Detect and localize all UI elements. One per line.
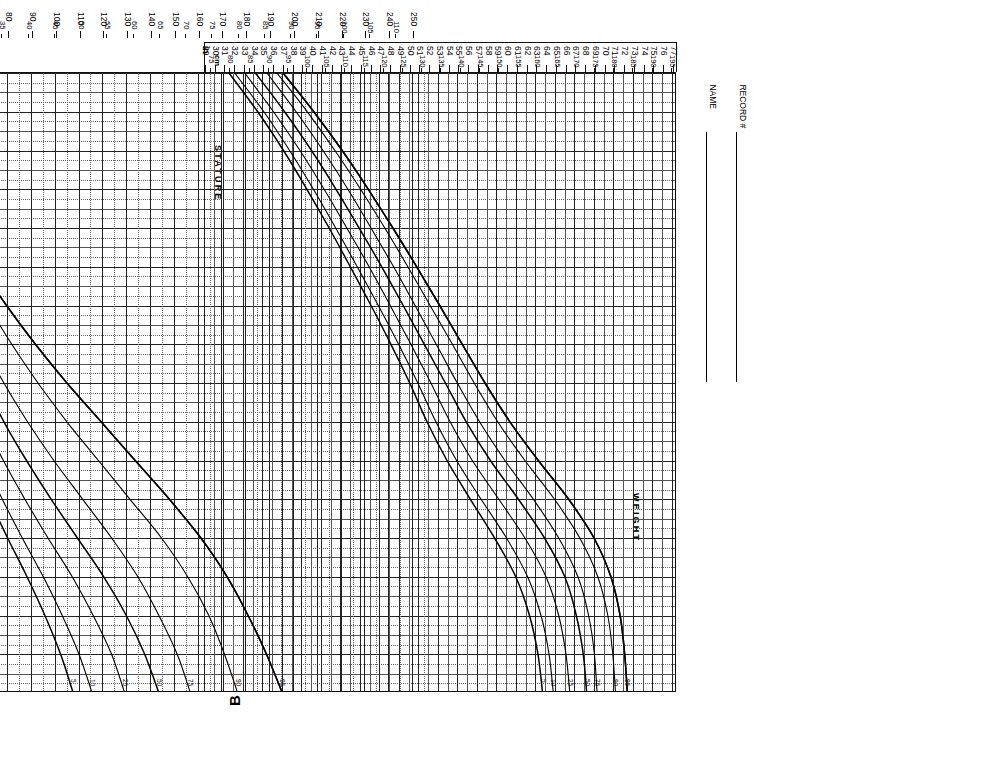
- rule: [369, 34, 370, 38]
- rule: [127, 31, 128, 38]
- weight-kg-tick-75: 75: [208, 21, 217, 29]
- rule: [449, 65, 450, 72]
- percentile-curve: [277, 73, 616, 692]
- rule: [1, 34, 2, 38]
- rule: [106, 34, 107, 38]
- rule: [389, 31, 390, 38]
- rule: [527, 65, 528, 72]
- rule: [244, 65, 245, 72]
- stature-cm-tick-175: 175: [591, 55, 600, 68]
- rule: [210, 68, 211, 72]
- rule: [566, 65, 567, 72]
- rule: [488, 65, 489, 72]
- rule: [103, 31, 104, 38]
- rule: [287, 68, 288, 72]
- weight-lb-tick-160: 160: [195, 12, 205, 26]
- stature-cm-tick-100: 100: [303, 55, 312, 68]
- rule: [390, 65, 391, 72]
- rule: [479, 68, 480, 72]
- rule: [613, 68, 614, 72]
- rule: [460, 68, 461, 72]
- weight-kg-tick-60: 60: [130, 21, 139, 29]
- rule: [215, 65, 216, 72]
- stature-cm-tick-180: 180: [610, 55, 619, 68]
- stature-cm-tick-160: 160: [533, 55, 542, 68]
- plot-area: 95907550251059590755025105 STATUREWEIGHT: [0, 72, 676, 692]
- rule: [371, 65, 372, 72]
- stature-in-tick-58: 58: [484, 46, 494, 55]
- rule: [316, 34, 317, 38]
- rule: [663, 65, 664, 72]
- record-number-field-input[interactable]: [736, 132, 737, 382]
- rule: [536, 68, 537, 72]
- stature-cm-tick-165: 165: [553, 55, 562, 68]
- rule: [80, 34, 81, 38]
- stature-in-tick-66: 66: [562, 46, 572, 55]
- weight-kg-tick-80: 80: [235, 21, 244, 29]
- rule: [421, 68, 422, 72]
- weight-lb-tick-180: 180: [242, 12, 252, 26]
- percentile-curve: [267, 73, 597, 692]
- stature-cm-tick-125: 125: [399, 55, 408, 68]
- stature-in-tick-60: 60: [503, 46, 513, 55]
- rule: [159, 34, 160, 38]
- rule: [283, 65, 284, 72]
- rule: [410, 65, 411, 72]
- rule: [293, 65, 294, 72]
- weight-kg-tick-50: 50: [77, 21, 86, 29]
- percentile-curve: [0, 73, 238, 692]
- rule: [199, 31, 200, 38]
- weight-kg-tick-55: 55: [103, 21, 112, 29]
- rule: [652, 68, 653, 72]
- rule: [205, 65, 206, 72]
- rule: [205, 42, 677, 43]
- rule: [151, 31, 152, 38]
- percentile-curve: [255, 73, 586, 692]
- weight-kg-tick-100: 100: [340, 21, 349, 34]
- rule: [429, 65, 430, 72]
- rule: [54, 34, 55, 38]
- rule: [268, 68, 269, 72]
- rule: [383, 68, 384, 72]
- rule: [312, 65, 313, 72]
- rule: [517, 68, 518, 72]
- stature-cm-tick-150: 150: [495, 55, 504, 68]
- rule: [264, 65, 265, 72]
- rule: [351, 65, 352, 72]
- weight-kg-tick-85: 85: [261, 21, 270, 29]
- rule: [413, 31, 414, 38]
- rule: [246, 31, 247, 38]
- rule: [290, 34, 291, 38]
- stature-cm-tick-145: 145: [476, 55, 485, 68]
- rule: [133, 34, 134, 38]
- weight-kg-tick-40: 40: [25, 21, 34, 29]
- rule: [294, 31, 295, 38]
- rule: [498, 68, 499, 72]
- rule: [364, 68, 365, 72]
- weight-kg-tick-95: 95: [313, 21, 322, 29]
- rule: [264, 34, 265, 38]
- rule: [575, 68, 576, 72]
- rule: [605, 65, 606, 72]
- rule: [624, 65, 625, 72]
- percentile-curve: [229, 73, 543, 692]
- rule: [222, 31, 223, 38]
- stature-cm-tick-170: 170: [572, 55, 581, 68]
- rule: [185, 34, 186, 38]
- weight-lb-tick-150: 150: [171, 12, 181, 26]
- stature-in-tick-64: 64: [542, 46, 552, 55]
- rule: [306, 68, 307, 72]
- stature-cm-tick-105: 105: [322, 55, 331, 68]
- stature-in-tick-56: 56: [464, 46, 474, 55]
- stature-cm-tick-120: 120: [380, 55, 389, 68]
- weight-kg-tick-110: 110: [392, 21, 401, 33]
- growth-chart-assembly: 95907550251059590755025105 STATUREWEIGHT…: [0, 0, 772, 772]
- growth-chart-page: BOYS: 2 TO 18 YEARS PHYSICAL GROWTH NCHS…: [0, 0, 1004, 772]
- name-field-input[interactable]: [706, 132, 707, 382]
- stature-cm-tick-110: 110: [342, 55, 351, 67]
- weight-kg-tick-35: 35: [0, 21, 7, 29]
- rule: [28, 34, 29, 38]
- stature-in-tick-62: 62: [523, 46, 533, 55]
- stature-cm-tick-140: 140: [457, 55, 466, 68]
- rule: [644, 65, 645, 72]
